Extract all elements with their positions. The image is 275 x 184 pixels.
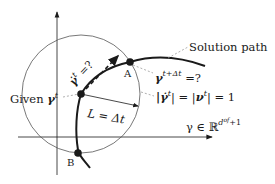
point-a — [126, 58, 134, 66]
label-space: γ ∈ ℝdof+1 — [186, 116, 241, 134]
label-step-length: L = Δt — [85, 106, 126, 127]
label-point-a: A — [123, 68, 132, 79]
space-prefix: γ ∈ ℝ — [186, 120, 219, 134]
leader-norm — [141, 92, 154, 96]
radius-arrow — [81, 94, 138, 106]
label-solution-path: Solution path — [189, 40, 268, 54]
label-next-point: γt+Δt =? — [155, 69, 201, 85]
given-point — [77, 90, 85, 98]
given-text: Given — [10, 92, 47, 106]
next-suffix: =? — [182, 71, 201, 85]
norm-c: | = 1 — [207, 90, 235, 105]
next-sup: t+Δt — [163, 69, 183, 78]
space-suffix: +1 — [229, 118, 241, 127]
norm-nu: ν — [196, 90, 204, 104]
leader-given — [63, 94, 79, 97]
label-given: Given γt — [10, 91, 59, 106]
point-b — [74, 149, 82, 157]
leader-solution-path — [168, 47, 188, 58]
given-sup: t — [55, 91, 59, 100]
continuation-diagram: A B Solution path Given γt γt+Δt =? |γ̇t… — [0, 0, 275, 184]
label-point-b: B — [67, 157, 74, 168]
norm-b: | = | — [171, 90, 196, 105]
label-norm: |γ̇t| = |νt| = 1 — [156, 89, 235, 105]
